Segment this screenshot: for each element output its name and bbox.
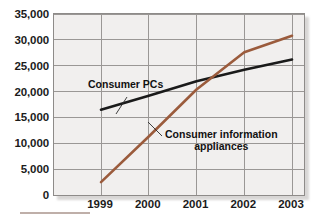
x-axis-tick-label: 2001 — [183, 198, 209, 210]
y-axis-tick-label: 15,000 — [14, 111, 49, 123]
figure-bottom-rule — [20, 212, 90, 214]
y-axis-tick-label: 0 — [43, 189, 49, 201]
vertical-gridlines — [101, 14, 292, 195]
x-axis-tick-label: 2003 — [278, 198, 304, 210]
annotation-consumer-pcs: Consumer PCs — [88, 78, 163, 90]
annotation-consumer-pcs-label: Consumer PCs — [88, 78, 163, 90]
x-axis-tick-labels: 19992000200120022003 — [53, 198, 305, 216]
x-axis-tick-label: 2002 — [230, 198, 256, 210]
y-axis-tick-label: 20,000 — [14, 86, 49, 98]
horizontal-gridlines — [54, 14, 304, 195]
x-axis-tick-label: 1999 — [87, 198, 113, 210]
plot-canvas — [54, 14, 304, 195]
y-axis-tick-label: 25,000 — [14, 60, 49, 72]
chart-figure: 35,00030,00025,00020,00015,00010,0005,00… — [0, 0, 323, 223]
plot-area — [53, 13, 305, 196]
annotation-consumer-information-appliances: Consumer information appliances — [165, 128, 278, 152]
annotation-appliances-label-line1: Consumer information — [165, 128, 278, 140]
y-axis-tick-labels: 35,00030,00025,00020,00015,00010,0005,00… — [0, 13, 49, 196]
annotation-appliances-label-line2: appliances — [165, 140, 278, 152]
y-axis-tick-label: 5,000 — [21, 163, 49, 175]
x-axis-tick-label: 2000 — [135, 198, 161, 210]
y-axis-tick-label: 30,000 — [14, 34, 49, 46]
y-axis-tick-label: 10,000 — [14, 137, 49, 149]
y-axis-tick-label: 35,000 — [14, 8, 49, 20]
